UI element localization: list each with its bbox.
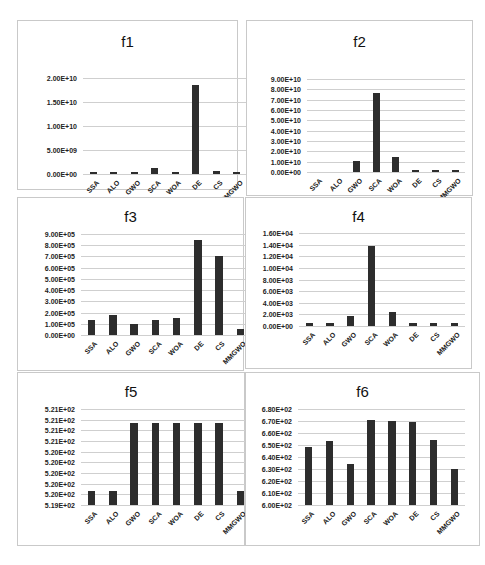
x-tick-label: DE xyxy=(408,510,420,522)
y-tick-label: 5.20E+02 xyxy=(20,448,75,455)
gridline xyxy=(298,469,465,470)
x-tick-label: ALO xyxy=(328,177,343,192)
bar-cs xyxy=(430,323,437,326)
x-tick-label: CS xyxy=(214,510,226,522)
bar-alo xyxy=(110,172,117,174)
y-tick-label: 2.00E+03 xyxy=(248,311,293,318)
x-tick-label: ALO xyxy=(321,510,336,525)
y-tick-label: 5.20E+02 xyxy=(20,470,75,477)
gridline xyxy=(298,481,465,482)
y-tick-label: 6.40E+02 xyxy=(248,454,292,461)
y-tick-label: 1.00E+10 xyxy=(20,123,77,130)
y-tick-label: 9.00E+10 xyxy=(249,76,301,83)
x-tick-label: GWO xyxy=(124,510,141,527)
bar-de xyxy=(194,423,201,505)
y-tick-label: 8.00E+05 xyxy=(20,242,75,249)
gridline xyxy=(298,409,465,410)
bar-ssa xyxy=(305,447,312,505)
gridline xyxy=(81,505,251,506)
gridline xyxy=(307,141,465,142)
plot-area: 6.00E+026.10E+026.20E+026.30E+026.40E+02… xyxy=(298,409,465,505)
bar-cs xyxy=(215,423,222,505)
gridline xyxy=(298,433,465,434)
gridline xyxy=(298,505,465,506)
bar-gwo xyxy=(131,172,138,174)
y-tick-label: 2.00E+10 xyxy=(20,75,77,82)
bar-sca xyxy=(368,246,375,326)
bar-woa xyxy=(173,423,180,505)
x-tick-label: WOA xyxy=(382,510,399,527)
x-tick-label: WOA xyxy=(167,510,184,527)
x-tick-label: ALO xyxy=(105,179,120,194)
bar-de xyxy=(409,323,416,326)
y-tick-label: 5.20E+02 xyxy=(20,459,75,466)
bar-sca xyxy=(151,168,158,174)
gridline xyxy=(299,291,465,292)
gridline xyxy=(81,313,251,314)
x-tick-label: GWO xyxy=(124,340,141,357)
x-tick-label: GWO xyxy=(341,331,358,348)
bar-cs xyxy=(430,440,437,505)
y-tick-label: 5.21E+02 xyxy=(20,438,75,445)
bar-sca xyxy=(152,423,159,505)
gridline xyxy=(299,268,465,269)
gridline xyxy=(81,256,251,257)
x-tick-label: SCA xyxy=(147,340,162,355)
bar-de xyxy=(192,85,199,174)
gridline xyxy=(298,445,465,446)
y-tick-label: 0.00E+00 xyxy=(249,169,301,176)
y-tick-label: 5.00E+05 xyxy=(20,275,75,282)
gridline xyxy=(299,303,465,304)
y-tick-label: 1.00E+04 xyxy=(248,264,293,271)
y-tick-label: 7.00E+05 xyxy=(20,253,75,260)
x-tick-label: WOA xyxy=(382,331,399,348)
chart-title: f2 xyxy=(247,33,472,50)
y-tick-label: 2.00E+10 xyxy=(249,148,301,155)
y-tick-label: 8.00E+03 xyxy=(248,276,293,283)
gridline xyxy=(298,493,465,494)
gridline xyxy=(81,441,251,442)
gridline xyxy=(299,245,465,246)
gridline xyxy=(81,494,251,495)
y-tick-label: 8.00E+10 xyxy=(249,86,301,93)
y-tick-label: 5.00E+10 xyxy=(249,117,301,124)
gridline xyxy=(81,452,251,453)
gridline xyxy=(81,268,251,269)
plot-area: 0.00E+002.00E+034.00E+036.00E+038.00E+03… xyxy=(299,233,465,326)
gridline xyxy=(81,473,251,474)
gridline xyxy=(83,174,247,175)
chart-title: f3 xyxy=(18,208,243,225)
y-tick-label: 6.00E+10 xyxy=(249,107,301,114)
y-tick-label: 1.50E+10 xyxy=(20,99,77,106)
x-tick-label: ALO xyxy=(322,331,337,346)
bar-ssa xyxy=(90,172,97,174)
gridline xyxy=(299,233,465,234)
bar-sca xyxy=(373,93,380,172)
chart-panel-f4: f40.00E+002.00E+034.00E+036.00E+038.00E+… xyxy=(245,197,472,369)
gridline xyxy=(81,462,251,463)
bar-alo xyxy=(109,491,116,505)
y-tick-label: 4.00E+03 xyxy=(248,299,293,306)
x-tick-label: ALO xyxy=(104,340,119,355)
bar-gwo xyxy=(347,464,354,505)
y-tick-label: 9.00E+05 xyxy=(20,231,75,238)
bar-sca xyxy=(367,420,374,505)
gridline xyxy=(81,279,251,280)
chart-title: f6 xyxy=(246,383,479,400)
gridline xyxy=(307,110,465,111)
gridline xyxy=(307,131,465,132)
gridline xyxy=(299,326,465,327)
bar-ssa xyxy=(306,323,313,326)
x-tick-label: SCA xyxy=(146,179,161,194)
gridline xyxy=(307,151,465,152)
y-tick-label: 5.19E+02 xyxy=(20,502,75,509)
y-tick-label: 0.00E+00 xyxy=(20,171,77,178)
y-tick-label: 2.00E+05 xyxy=(20,309,75,316)
plot-area: 0.00E+005.00E+091.00E+101.50E+102.00E+10… xyxy=(83,78,247,174)
gridline xyxy=(307,89,465,90)
x-tick-label: SSA xyxy=(83,340,98,355)
bar-mmgwo xyxy=(237,329,244,335)
gridline xyxy=(81,484,251,485)
bar-gwo xyxy=(130,423,137,505)
y-tick-label: 0.00E+00 xyxy=(20,332,75,339)
